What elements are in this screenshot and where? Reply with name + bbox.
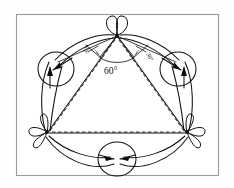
central-angle-label: 60° bbox=[104, 66, 118, 76]
lower-right-center-dot bbox=[185, 130, 189, 134]
apex-center-dot bbox=[115, 34, 119, 38]
lower-left-center-dot bbox=[45, 130, 49, 134]
figure-container: 60° 30° 30° bbox=[0, 0, 234, 188]
orbital-diagram-svg: 60° 30° 30° bbox=[0, 0, 234, 188]
figure-frame bbox=[17, 15, 219, 176]
